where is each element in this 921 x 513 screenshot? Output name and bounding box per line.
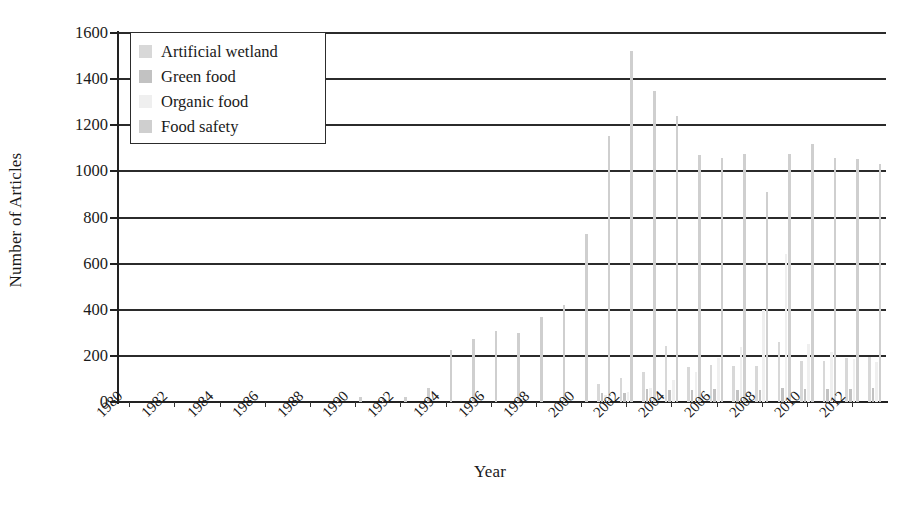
- legend-item-label: Green food: [161, 68, 236, 85]
- bar: [687, 367, 690, 402]
- y-axis-tick-label: 1400: [48, 71, 108, 88]
- legend-item: Green food: [139, 64, 325, 89]
- x-axis-tick: [446, 402, 447, 407]
- y-axis-tick-labels: 02004006008001000120014001600: [40, 0, 108, 420]
- legend-swatch-icon: [139, 95, 152, 108]
- bar: [359, 397, 362, 402]
- bar: [743, 154, 746, 402]
- bar: [608, 136, 611, 402]
- x-axis-tick: [762, 402, 763, 407]
- bar: [540, 317, 543, 402]
- y-axis-tick: [110, 78, 119, 80]
- gridline-y: [118, 309, 886, 311]
- y-axis-tick: [110, 217, 119, 219]
- bar: [807, 344, 810, 402]
- x-axis-tick: [220, 402, 221, 407]
- bar: [665, 346, 668, 403]
- bar: [668, 390, 671, 402]
- gridline-y: [118, 355, 886, 357]
- bar: [732, 366, 735, 402]
- y-axis-tick: [110, 170, 119, 172]
- x-axis-tick: [129, 402, 130, 407]
- x-axis-tick: [626, 402, 627, 407]
- bar: [788, 154, 791, 402]
- y-axis-tick: [110, 263, 119, 265]
- legend-item-label: Food safety: [161, 118, 238, 135]
- y-axis-title: Number of Articles: [6, 120, 26, 320]
- bar: [785, 254, 788, 402]
- y-axis-tick-label: 1000: [48, 163, 108, 180]
- x-axis-tick: [174, 402, 175, 407]
- y-axis-tick-label: 1600: [48, 25, 108, 42]
- bar: [672, 380, 675, 402]
- legend-item: Organic food: [139, 89, 325, 114]
- bar: [879, 164, 882, 402]
- legend-swatch-icon: [139, 70, 152, 83]
- bar: [804, 389, 807, 402]
- x-axis-tick: [807, 402, 808, 407]
- x-axis-tick: [310, 402, 311, 407]
- y-axis-tick-label: 400: [48, 302, 108, 319]
- bar: [627, 392, 630, 402]
- legend-item-label: Organic food: [161, 93, 248, 110]
- x-axis-tick: [671, 402, 672, 407]
- y-axis-tick: [110, 124, 119, 126]
- y-axis-tick: [110, 32, 119, 34]
- bar: [450, 350, 453, 402]
- bar: [623, 393, 626, 402]
- bar: [823, 361, 826, 403]
- x-axis-tick: [491, 402, 492, 407]
- bar: [834, 158, 837, 402]
- bar: [856, 159, 859, 402]
- bar: [404, 397, 407, 402]
- bar: [759, 390, 762, 402]
- bar: [642, 372, 645, 402]
- gridline-y: [118, 217, 886, 219]
- y-axis-tick: [110, 309, 119, 311]
- chart-legend: Artificial wetlandGreen foodOrganic food…: [130, 32, 326, 144]
- bar: [762, 310, 765, 402]
- bar: [676, 116, 679, 402]
- legend-swatch-icon: [139, 45, 152, 58]
- bar: [853, 359, 856, 402]
- bar: [868, 357, 871, 402]
- gridline-y: [118, 263, 886, 265]
- y-axis-tick-label: 200: [48, 348, 108, 365]
- bar: [778, 342, 781, 402]
- x-axis-tick: [852, 402, 853, 407]
- y-axis-tick-label: 1200: [48, 117, 108, 134]
- x-axis-tick: [265, 402, 266, 407]
- bar: [630, 51, 633, 402]
- y-axis-tick-label: 600: [48, 256, 108, 273]
- bar: [766, 192, 769, 402]
- bar: [698, 155, 701, 402]
- x-axis-tick: [400, 402, 401, 407]
- legend-item: Artificial wetland: [139, 39, 325, 64]
- x-axis-tick: [717, 402, 718, 407]
- legend-item-label: Artificial wetland: [161, 43, 278, 60]
- y-axis-tick: [110, 355, 119, 357]
- y-axis-tick-label: 800: [48, 210, 108, 227]
- legend-item: Food safety: [139, 114, 325, 139]
- gridline-y: [118, 170, 886, 172]
- legend-swatch-icon: [139, 120, 152, 133]
- chart-figure: Number of Articles Year 0200400600800100…: [0, 0, 921, 513]
- bar: [721, 158, 724, 402]
- bar: [811, 144, 814, 402]
- x-axis-tick: [355, 402, 356, 407]
- x-axis-tick: [536, 402, 537, 407]
- bar: [717, 358, 720, 402]
- bar: [653, 91, 656, 402]
- bar: [872, 388, 875, 402]
- x-axis-tick: [581, 402, 582, 407]
- bar: [495, 331, 498, 402]
- bar: [849, 389, 852, 402]
- x-axis-title: Year: [380, 462, 600, 482]
- bar: [875, 362, 878, 402]
- bar: [585, 234, 588, 402]
